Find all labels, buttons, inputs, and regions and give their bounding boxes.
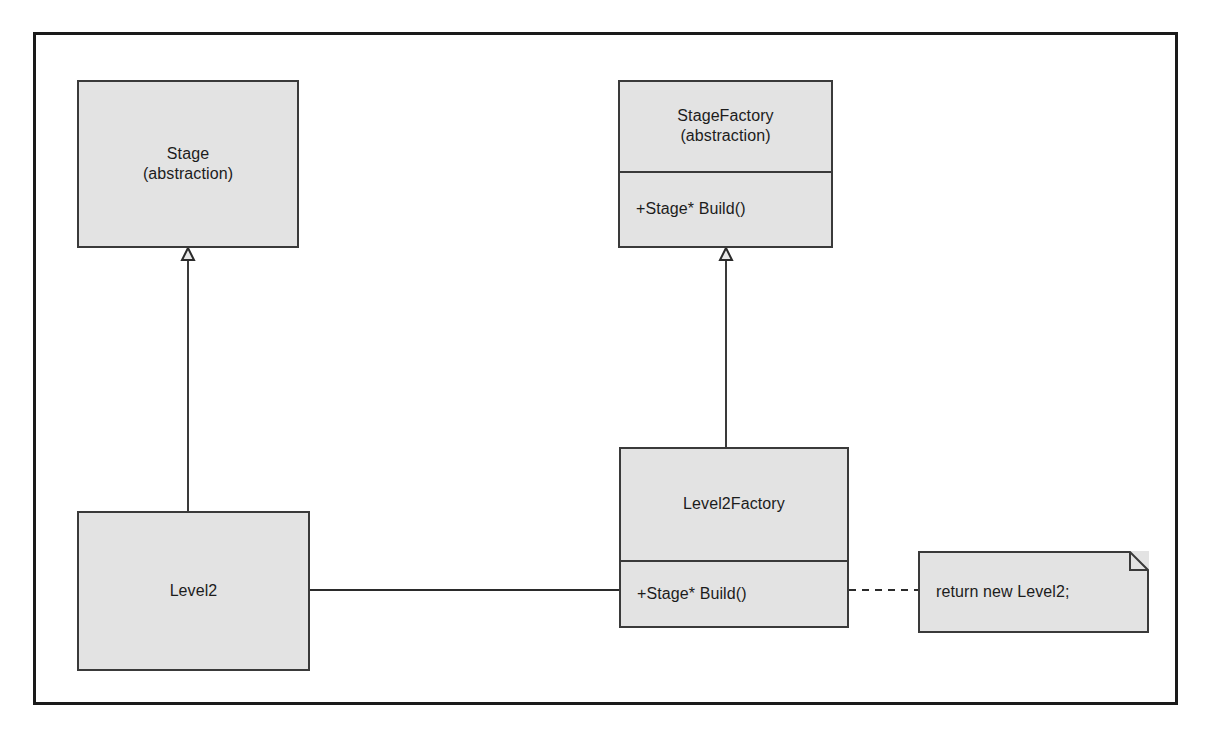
level2-title-compartment: Level2 — [79, 513, 308, 669]
diagram-frame: Stage (abstraction) StageFactory (abstra… — [33, 32, 1178, 705]
uml-class-level2-factory[interactable]: Level2Factory +Stage* Build() — [619, 447, 849, 628]
uml-class-stage-factory[interactable]: StageFactory (abstraction) +Stage* Build… — [618, 80, 833, 248]
stage-factory-method-compartment: +Stage* Build() — [620, 171, 831, 246]
stage-stereotype: (abstraction) — [143, 164, 233, 184]
stage-class-name: Stage — [167, 144, 209, 164]
diagram-canvas: Stage (abstraction) StageFactory (abstra… — [0, 0, 1206, 741]
level2-factory-class-name: Level2Factory — [683, 494, 785, 514]
generalization-level2factory-to-stagefactory — [720, 248, 732, 447]
uml-note-return-new-level2[interactable]: return new Level2; — [918, 551, 1149, 633]
stage-factory-title-compartment: StageFactory (abstraction) — [620, 82, 831, 171]
note-text-content: return new Level2; — [936, 583, 1069, 601]
generalization-level2-to-stage — [182, 248, 194, 511]
uml-class-level2[interactable]: Level2 — [77, 511, 310, 671]
level2-factory-title-compartment: Level2Factory — [621, 449, 847, 560]
note-text: return new Level2; — [918, 551, 1149, 633]
stage-title-compartment: Stage (abstraction) — [79, 82, 297, 246]
level2-class-name: Level2 — [170, 581, 218, 601]
level2-factory-method-compartment: +Stage* Build() — [621, 560, 847, 626]
dependency-level2factory-to-level2 — [276, 584, 619, 596]
level2-factory-method-build: +Stage* Build() — [637, 584, 747, 604]
uml-class-stage[interactable]: Stage (abstraction) — [77, 80, 299, 248]
stage-factory-method-build: +Stage* Build() — [636, 199, 746, 219]
stage-factory-stereotype: (abstraction) — [680, 126, 770, 146]
stage-factory-class-name: StageFactory — [677, 106, 773, 126]
